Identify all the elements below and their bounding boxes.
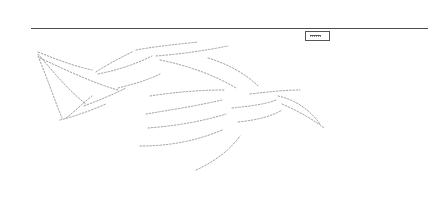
dotted-line-swatch-icon [310, 36, 321, 37]
x-axis-line [31, 28, 428, 29]
legend [305, 31, 330, 41]
legend-item-inferred-relationships [310, 36, 324, 37]
hominin-timeline-figure [0, 0, 442, 205]
inferred-relationship-lines [0, 0, 442, 205]
